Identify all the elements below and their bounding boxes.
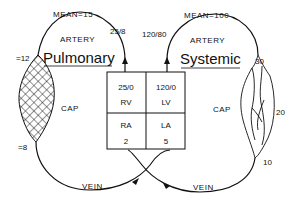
systemic-cap-in-pressure: 30 — [255, 57, 264, 66]
lv-label: LV — [161, 98, 171, 107]
systemic-cap-out-pressure: 10 — [263, 158, 272, 167]
pulmonary-artery-arrow — [122, 57, 128, 64]
ra-label: RA — [120, 121, 132, 130]
la-pressure: 5 — [164, 137, 169, 146]
systemic-cap-mid-pressure: 20 — [276, 108, 285, 117]
lv-pressure: 120/0 — [156, 83, 177, 92]
systemic-mean-label: MEAN=100 — [184, 11, 229, 20]
pulmonary-cap-label: CAP — [61, 104, 79, 113]
pulmonary-title: Pulmonary — [43, 49, 115, 66]
systemic-artery-label: ARTERY — [190, 36, 225, 45]
circulation-diagram: 25/0 RV 120/0 LV RA 2 LA 5 MEAN=15 ARTER… — [0, 0, 300, 211]
systemic-vein-path — [128, 150, 255, 192]
pulmonary-cap-in-pressure: =12 — [16, 54, 30, 63]
pulmonary-vein-label: VEIN — [82, 182, 103, 191]
pulmonary-cap-out-pressure: =8 — [18, 143, 28, 152]
systemic-title: Systemic — [180, 50, 241, 67]
systemic-vein-label: VEIN — [193, 183, 214, 192]
rv-pressure: 25/0 — [118, 83, 134, 92]
pulmonary-mean-label: MEAN=15 — [53, 10, 93, 19]
la-label: LA — [161, 121, 171, 130]
systemic-cap-label: CAP — [213, 105, 231, 114]
systemic-artery-arrow — [164, 57, 170, 64]
systemic-capillary-bed — [241, 55, 274, 158]
rv-label: RV — [121, 98, 133, 107]
systemic-artery-pressure: 120/80 — [142, 30, 167, 39]
ra-pressure: 2 — [124, 137, 129, 146]
pulmonary-artery-label: ARTERY — [60, 35, 95, 44]
pulmonary-artery-pressure: 25/8 — [110, 27, 126, 36]
pulmonary-capillary-bed — [19, 55, 54, 142]
